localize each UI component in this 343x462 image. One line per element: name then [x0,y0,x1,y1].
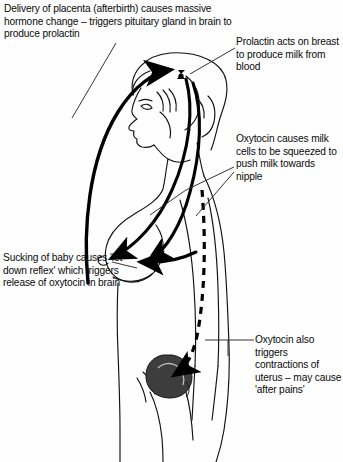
caption-oxytocin-uterus: Oxytocin also triggers contractions of u… [255,334,343,397]
caption-prolactin-breast: Prolactin acts on breast to produce milk… [236,36,342,74]
uterus-shape [146,355,192,398]
caption-oxytocin-milk-cells: Oxytocin causes milk cells to be squeeze… [236,133,342,183]
caption-placenta-prolactin: Delivery of placenta (afterbirth) causes… [4,3,244,41]
caption-sucking-let-down-reflex: Sucking of baby causes 'let down reflex'… [3,252,138,290]
pituitary-gland-marker [177,70,185,79]
lactation-diagram: Delivery of placenta (afterbirth) causes… [0,0,343,462]
